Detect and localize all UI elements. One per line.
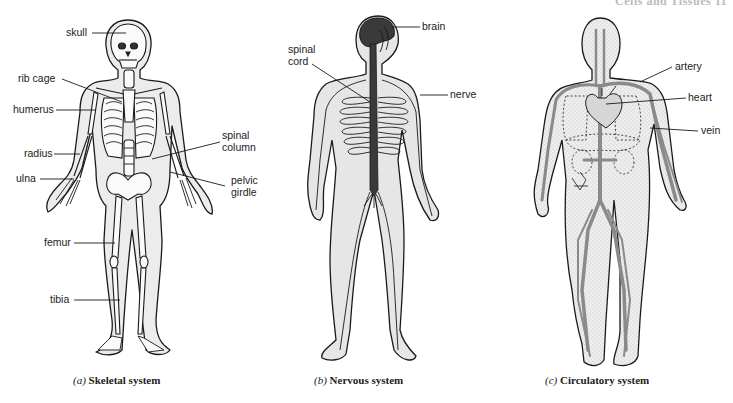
caption-letter: (b) xyxy=(314,374,327,386)
label-artery: artery xyxy=(675,61,702,72)
label-spinal-cord-line1: spinal xyxy=(288,44,315,55)
circulatory-system-illustration xyxy=(500,0,733,370)
label-radius: radius xyxy=(24,148,53,159)
label-pelvic-girdle-line1: pelvic xyxy=(231,175,258,186)
label-femur: femur xyxy=(44,237,71,248)
label-tibia: tibia xyxy=(50,294,69,305)
caption-title: Skeletal system xyxy=(89,374,161,386)
caption-title: Circulatory system xyxy=(560,374,649,386)
caption-letter: (a) xyxy=(73,374,86,386)
label-spinal-cord-line2: cord xyxy=(288,56,308,67)
caption-circulatory-system: (c) Circulatory system xyxy=(545,374,649,386)
label-skull: skull xyxy=(66,27,87,38)
label-vein: vein xyxy=(701,125,720,136)
figure-nervous-system: brain spinal cord nerve (b) Nervous syst… xyxy=(270,0,510,403)
caption-title: Nervous system xyxy=(330,374,404,386)
caption-nervous-system: (b) Nervous system xyxy=(314,374,403,386)
label-rib-cage: rib cage xyxy=(18,73,55,84)
label-spinal-column-line2: column xyxy=(222,142,256,153)
label-brain: brain xyxy=(422,21,445,32)
label-pelvic-girdle-line2: girdle xyxy=(231,187,257,198)
figure-circulatory-system: artery heart vein (c) Circulatory system xyxy=(500,0,733,403)
label-spinal-column-line1: spinal xyxy=(222,130,249,141)
label-ulna: ulna xyxy=(16,173,36,184)
skeleton-illustration xyxy=(0,0,260,370)
label-humerus: humerus xyxy=(13,104,54,115)
figure-skeletal-system: skull rib cage humerus radius ulna spina… xyxy=(0,0,260,403)
label-heart: heart xyxy=(688,92,712,103)
label-nerve: nerve xyxy=(450,89,476,100)
caption-letter: (c) xyxy=(545,374,557,386)
caption-skeletal-system: (a) Skeletal system xyxy=(73,374,160,386)
